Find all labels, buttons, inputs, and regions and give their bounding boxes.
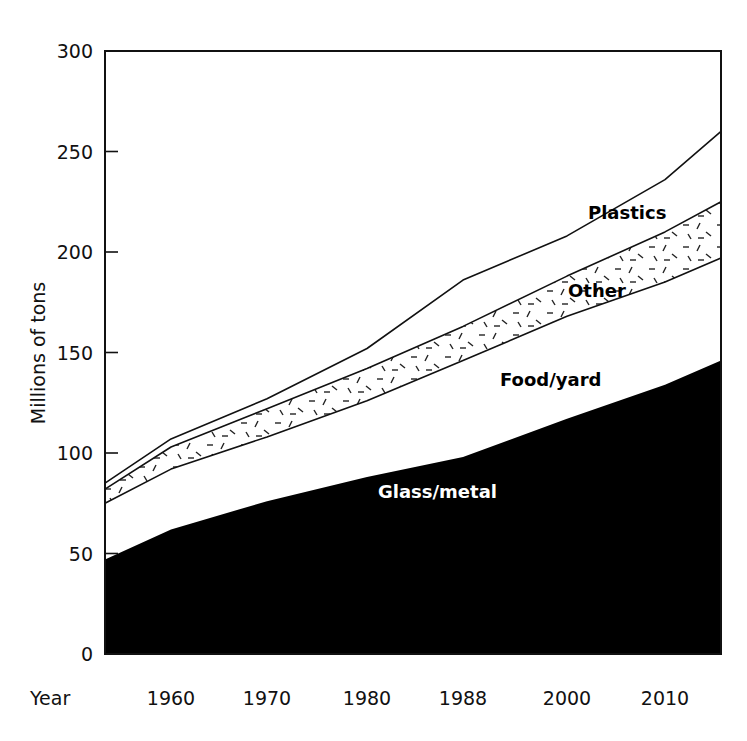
y-tick-label: 50 [69, 543, 93, 565]
y-tick-label: 150 [57, 342, 93, 364]
y-tick-label: 300 [57, 40, 93, 62]
series-label-glass-metal: Glass/metal [378, 481, 497, 502]
stacked-area-chart: 050100150200250300 196019701980198820002… [0, 0, 747, 741]
series-label-food-yard: Food/yard [500, 369, 601, 390]
x-axis: 196019701980198820002010 [147, 687, 689, 709]
x-tick-label: 1970 [243, 687, 291, 709]
series-label-plastics: Plastics [588, 202, 666, 223]
y-tick-label: 100 [57, 442, 93, 464]
x-tick-label: 2010 [641, 687, 689, 709]
y-axis-title: Millions of tons [27, 282, 49, 424]
x-tick-label: 1960 [147, 687, 195, 709]
x-tick-label: 1980 [343, 687, 391, 709]
series-label-other: Other [568, 280, 626, 301]
y-tick-label: 250 [57, 141, 93, 163]
x-tick-label: 1988 [439, 687, 487, 709]
x-tick-label: 2000 [543, 687, 591, 709]
y-tick-label: 200 [57, 241, 93, 263]
y-tick-label: 0 [81, 643, 93, 665]
x-axis-title: Year [29, 687, 70, 709]
